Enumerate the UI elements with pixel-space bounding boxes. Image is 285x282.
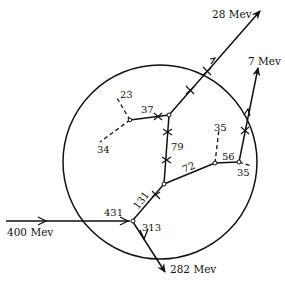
label-56: 56: [222, 151, 235, 162]
label-28-mev: 28 Mev: [212, 8, 252, 20]
label-7-mev: 7 Mev: [248, 55, 281, 67]
vertex-79: [167, 113, 171, 117]
track-23: [117, 98, 130, 120]
label-72: 72: [181, 160, 197, 175]
label-79: 79: [171, 141, 184, 152]
track-56: [215, 162, 239, 163]
track-35-upper: [215, 129, 219, 163]
vertex-primary: [131, 219, 135, 223]
track-28: [169, 11, 260, 115]
label-37: 37: [141, 104, 154, 115]
vertex-131: [162, 182, 166, 186]
label-23: 23: [120, 89, 133, 100]
vertex-37: [128, 118, 132, 122]
vertex-56: [237, 160, 241, 164]
label-35-upper: 35: [214, 122, 227, 133]
track-34: [100, 120, 130, 142]
decay-diagram: 28 Mev 7 Mev 400 Mev 282 Mev 431 313 131…: [0, 0, 285, 282]
vertex-72: [213, 161, 217, 165]
incoming-track: [6, 217, 130, 225]
label-313: 313: [142, 222, 161, 233]
label-431: 431: [104, 207, 123, 218]
label-35-lower: 35: [237, 167, 250, 178]
label-282-mev: 282 Mev: [170, 263, 216, 275]
track-7: [239, 68, 258, 162]
label-400-mev: 400 Mev: [7, 226, 53, 238]
label-34: 34: [97, 144, 110, 155]
label-131: 131: [131, 189, 151, 211]
